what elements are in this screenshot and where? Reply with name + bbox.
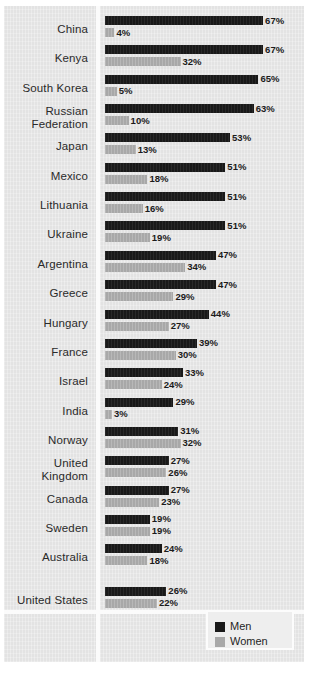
women-bar-value: 4% [114, 28, 130, 37]
men-bar-group: 19% [105, 515, 171, 524]
women-bar-value: 5% [117, 86, 133, 95]
men-bar [105, 368, 183, 377]
women-bar-group: 3% [105, 410, 128, 419]
men-bar [105, 104, 254, 113]
women-bar-value: 13% [136, 145, 157, 154]
women-bar [105, 556, 147, 565]
men-bar [105, 456, 169, 465]
men-bar-group: 63% [105, 104, 275, 113]
category-label: Russian Federation [0, 105, 88, 130]
women-bar-group: 5% [105, 87, 133, 96]
women-bar-group: 34% [105, 263, 206, 272]
men-bar-value: 47% [216, 250, 237, 259]
men-bar-group: 51% [105, 192, 246, 201]
category-label: Argentina [0, 258, 88, 271]
women-bar [105, 57, 181, 66]
men-bar-group: 27% [105, 486, 190, 495]
women-bar [105, 87, 117, 96]
men-bar-value: 26% [166, 586, 187, 595]
category-label: India [0, 405, 88, 418]
bar-row: Australia24%18% [0, 542, 310, 576]
men-bar [105, 163, 225, 172]
women-bar [105, 410, 112, 419]
legend-label-men: Men [225, 621, 251, 632]
women-bar [105, 175, 147, 184]
women-bar [105, 599, 157, 608]
women-bar-group: 19% [105, 527, 171, 536]
women-bar [105, 468, 166, 477]
men-bar-value: 19% [150, 514, 171, 523]
category-label: Norway [0, 434, 88, 447]
women-bar-group: 18% [105, 175, 168, 184]
category-label: Sweden [0, 522, 88, 535]
category-label: Japan [0, 140, 88, 153]
women-bar-value: 23% [159, 497, 180, 506]
women-bar-value: 27% [169, 321, 190, 330]
women-bar [105, 28, 114, 37]
women-bar-value: 3% [112, 409, 128, 418]
men-bar [105, 75, 258, 84]
women-bar-group: 26% [105, 468, 187, 477]
legend-swatch-men-icon [215, 622, 225, 632]
men-bar [105, 251, 216, 260]
men-bar [105, 310, 209, 319]
men-bar-value: 51% [225, 162, 246, 171]
women-bar-group: 24% [105, 380, 183, 389]
women-bar [105, 351, 176, 360]
men-bar-value: 27% [169, 456, 190, 465]
women-bar-group: 23% [105, 498, 180, 507]
women-bar-value: 22% [157, 598, 178, 607]
women-bar-group: 30% [105, 351, 197, 360]
women-bar-group: 27% [105, 322, 190, 331]
women-bar-value: 19% [150, 233, 171, 242]
men-bar-value: 31% [178, 426, 199, 435]
women-bar [105, 263, 185, 272]
men-bar-group: 24% [105, 544, 183, 553]
men-bar-group: 47% [105, 251, 237, 260]
women-bar [105, 233, 150, 242]
men-bar-value: 29% [173, 397, 194, 406]
men-bar-value: 51% [225, 221, 246, 230]
men-bar-group: 51% [105, 163, 246, 172]
men-bar-value: 51% [225, 192, 246, 201]
men-bar-value: 67% [263, 45, 284, 54]
men-bar-group: 44% [105, 310, 230, 319]
women-bar [105, 439, 181, 448]
row-bars: 24%18% [105, 542, 310, 576]
men-bar [105, 515, 150, 524]
women-bar [105, 527, 150, 536]
men-bar-group: 47% [105, 280, 237, 289]
men-bar-group: 33% [105, 368, 204, 377]
men-bar-value: 24% [162, 544, 183, 553]
men-bar [105, 192, 225, 201]
men-bar-group: 51% [105, 221, 246, 230]
men-bar [105, 45, 263, 54]
women-bar [105, 204, 143, 213]
men-bar-group: 65% [105, 75, 279, 84]
women-bar-value: 18% [147, 174, 168, 183]
women-bar-group: 16% [105, 204, 164, 213]
men-bar [105, 339, 197, 348]
men-bar-value: 44% [209, 309, 230, 318]
women-bar-group: 4% [105, 28, 130, 37]
men-bar-value: 47% [216, 280, 237, 289]
category-label: Hungary [0, 317, 88, 330]
chart-root: China67%4%Kenya67%32%South Korea65%5%Rus… [0, 0, 310, 676]
category-label: Greece [0, 287, 88, 300]
men-bar-group: 53% [105, 133, 251, 142]
men-bar [105, 16, 263, 25]
men-bar-value: 63% [254, 104, 275, 113]
women-bar-group: 10% [105, 116, 150, 125]
category-label: United Kingdom [0, 457, 88, 482]
men-bar [105, 280, 216, 289]
category-label: Australia [0, 551, 88, 564]
women-bar-group: 29% [105, 292, 194, 301]
women-bar [105, 322, 169, 331]
women-bar-value: 32% [181, 57, 202, 66]
women-bar-group: 22% [105, 599, 178, 608]
category-label: South Korea [0, 82, 88, 95]
category-label: Kenya [0, 52, 88, 65]
category-label: Ukraine [0, 228, 88, 241]
legend-item-men: Men [215, 617, 251, 629]
category-label: France [0, 346, 88, 359]
